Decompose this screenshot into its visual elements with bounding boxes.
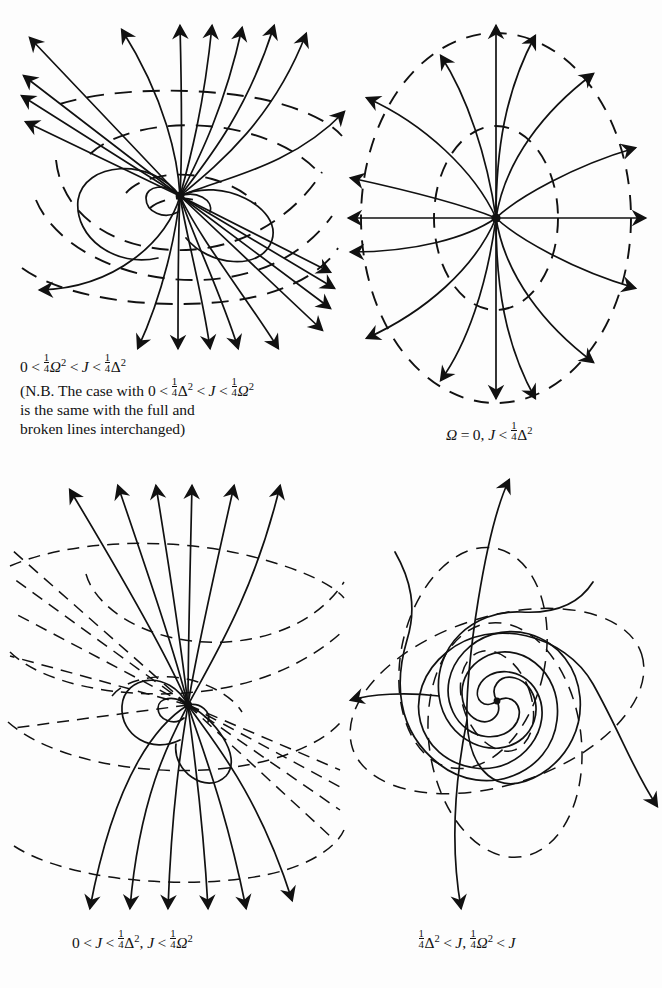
caption-1-line-4: broken lines interchanged) [20,419,254,438]
caption-1-line-2: (N.B. The case with 0<14Δ2<J<14Ω2 [20,376,254,400]
one-quarter-1b: 14 [105,352,110,374]
phase-portrait-svg-3 [0,470,345,910]
one-quarter-p3a: 14 [118,928,123,950]
caption-1-line-3: is the same with the full and [20,400,254,419]
phase-portrait-svg-1 [0,0,345,348]
one-quarter-2b: 14 [232,376,237,398]
caption-1-line-1: 0<14Ω2<J<14Δ2 [20,352,254,376]
dashed-ellipse-c [413,613,596,868]
panel-bottom-left [0,470,345,910]
full-radial-rays-2 [349,26,645,398]
one-quarter-1a: 14 [44,352,49,374]
dashed-ellipse-b [379,533,566,782]
phase-portrait-svg-2 [345,0,662,400]
critical-point-4 [494,698,501,705]
critical-point-3 [184,701,192,709]
caption-panel-4: 14Δ2<J, 14Ω2<J [418,928,515,952]
full-trajectories-1 [22,26,344,348]
panel-top-right [345,0,662,400]
panel-bottom-right [345,470,662,910]
one-quarter-p4a: 14 [419,928,424,950]
panel-top-left [0,0,345,348]
one-quarter-p2: 14 [511,420,516,442]
one-quarter-p3b: 14 [170,928,175,950]
critical-point-1 [176,192,185,201]
critical-point-2 [491,213,500,222]
caption-panel-1: 0<14Ω2<J<14Δ2 (N.B. The case with 0<14Δ2… [20,352,254,438]
one-quarter-2a: 14 [172,376,177,398]
full-spiral-arms-4 [351,480,657,908]
full-trajectories-3 [70,486,292,908]
one-quarter-p4b: 14 [470,928,475,950]
caption-panel-3: 0<J<14Δ2, J<14Ω2 [72,928,193,952]
phase-portrait-svg-4 [345,470,662,910]
caption-panel-2: Ω=0, J<14Δ2 [446,420,532,444]
